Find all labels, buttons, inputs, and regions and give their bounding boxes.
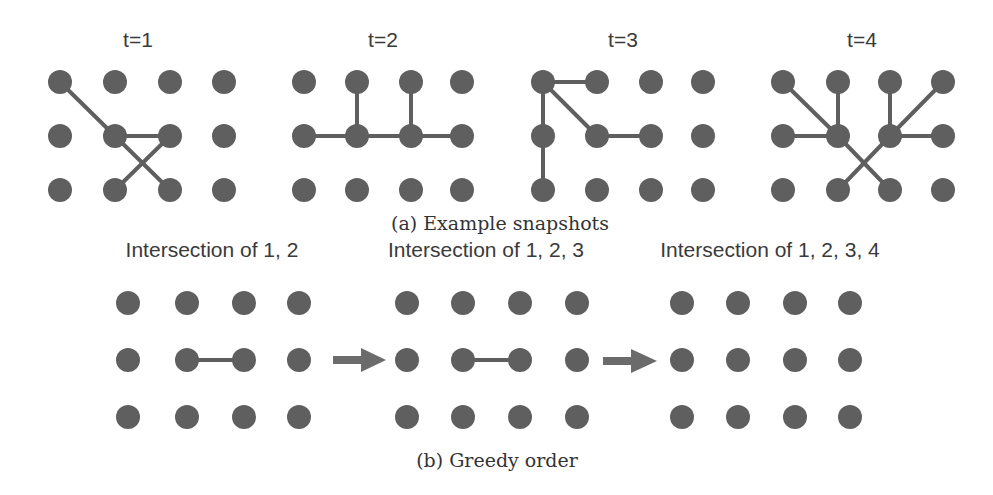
graph-node: [103, 178, 127, 202]
graph-node: [232, 348, 256, 372]
graph-node: [450, 124, 474, 148]
graph-node: [287, 405, 311, 429]
graph-node: [287, 291, 311, 315]
graph-node: [212, 178, 236, 202]
graph-node: [175, 291, 199, 315]
graph-node: [292, 70, 316, 94]
graph-node: [639, 70, 663, 94]
graph-node: [508, 348, 532, 372]
snapshot-graph-2: [292, 70, 474, 202]
graph-node: [726, 405, 750, 429]
graph-node: [931, 178, 955, 202]
graph-node: [345, 70, 369, 94]
graph-node: [771, 70, 795, 94]
caption-b: (b) Greedy order: [416, 449, 579, 471]
graph-node: [531, 124, 555, 148]
graph-node: [116, 405, 140, 429]
step-title-2: Intersection of 1, 2, 3: [388, 238, 584, 261]
greedy-order-graphs: [116, 291, 862, 429]
graph-node: [450, 178, 474, 202]
graph-node: [103, 124, 127, 148]
graph-node: [826, 70, 850, 94]
example-snapshots-graphs: [48, 70, 955, 202]
graph-node: [399, 124, 423, 148]
graph-node: [878, 124, 902, 148]
graph-node: [565, 291, 589, 315]
graph-node: [838, 405, 862, 429]
graph-node: [565, 348, 589, 372]
graph-node: [931, 70, 955, 94]
graph-node: [451, 348, 475, 372]
graph-node: [726, 291, 750, 315]
snapshot-title-t2: t=2: [368, 28, 398, 51]
step-title-1: Intersection of 1, 2: [126, 238, 299, 261]
graph-node: [451, 405, 475, 429]
graph-node: [345, 178, 369, 202]
graph-node: [158, 124, 182, 148]
intersection-graph-2: [395, 291, 589, 429]
right-arrow-icon: [603, 349, 657, 373]
graph-node: [826, 178, 850, 202]
graph-node: [451, 291, 475, 315]
graph-node: [691, 124, 715, 148]
figure-canvas: t=1 t=2 t=3 t=4 (a) Example snapshots In…: [0, 0, 993, 495]
snapshot-graph-1: [48, 70, 236, 202]
graph-node: [48, 124, 72, 148]
graph-node: [508, 291, 532, 315]
graph-node: [212, 70, 236, 94]
graph-node: [771, 124, 795, 148]
step-title-3: Intersection of 1, 2, 3, 4: [660, 238, 880, 261]
graph-node: [585, 70, 609, 94]
graph-node: [175, 348, 199, 372]
graph-node: [395, 291, 419, 315]
intersection-graph-3: [670, 291, 862, 429]
snapshot-graph-3: [531, 70, 715, 202]
graph-node: [691, 178, 715, 202]
graph-node: [287, 348, 311, 372]
graph-node: [565, 405, 589, 429]
graph-node: [670, 348, 694, 372]
graph-node: [158, 70, 182, 94]
graph-node: [292, 124, 316, 148]
graph-node: [783, 348, 807, 372]
graph-node: [783, 291, 807, 315]
graph-node: [212, 124, 236, 148]
graph-node: [232, 405, 256, 429]
graph-node: [931, 124, 955, 148]
graph-node: [726, 348, 750, 372]
graph-node: [116, 291, 140, 315]
graph-node: [103, 70, 127, 94]
graph-node: [175, 405, 199, 429]
graph-node: [639, 124, 663, 148]
graph-node: [345, 124, 369, 148]
graph-node: [116, 348, 140, 372]
graph-node: [531, 70, 555, 94]
graph-node: [395, 405, 419, 429]
graph-node: [450, 70, 474, 94]
graph-node: [395, 348, 419, 372]
graph-node: [771, 178, 795, 202]
graph-node: [531, 178, 555, 202]
graph-node: [585, 178, 609, 202]
graph-node: [878, 70, 902, 94]
graph-node: [158, 178, 182, 202]
graph-node: [399, 178, 423, 202]
graph-node: [399, 70, 423, 94]
graph-node: [783, 405, 807, 429]
graph-node: [691, 70, 715, 94]
graph-node: [639, 178, 663, 202]
graph-node: [838, 291, 862, 315]
graph-node: [878, 178, 902, 202]
snapshot-title-t4: t=4: [847, 28, 877, 51]
right-arrow-icon: [333, 348, 386, 372]
intersection-graph-1: [116, 291, 311, 429]
snapshot-title-t3: t=3: [608, 28, 638, 51]
graph-node: [508, 405, 532, 429]
graph-node: [670, 291, 694, 315]
graph-node: [232, 291, 256, 315]
graph-node: [826, 124, 850, 148]
graph-node: [838, 348, 862, 372]
caption-a: (a) Example snapshots: [391, 212, 609, 234]
graph-node: [48, 178, 72, 202]
snapshot-title-t1: t=1: [123, 28, 153, 51]
